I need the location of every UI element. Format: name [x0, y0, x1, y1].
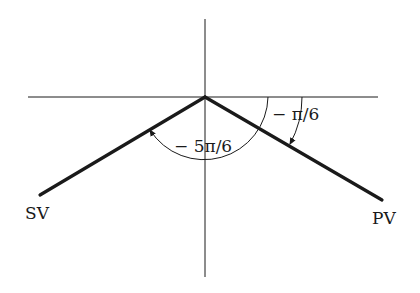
sv-label: SV [25, 203, 50, 223]
pv-label: PV [372, 208, 396, 228]
pv-angle-label: − π/6 [272, 104, 319, 124]
sv-angle-label: − 5π/6 [174, 136, 232, 156]
phasor-diagram: − 5π/6 − π/6 SV PV [0, 0, 420, 293]
